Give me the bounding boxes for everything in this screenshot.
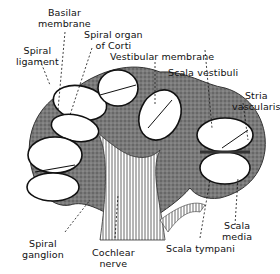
label-scala-tympani: Scala tympani (166, 244, 235, 255)
label-spiral-ganglion: Spiral ganglion (22, 239, 64, 260)
label-spiral-ligament: Spiral ligament (16, 46, 59, 67)
label-basilar-membrane: Basilar membrane (38, 8, 91, 29)
cochlea-diagram: Basilar membrane Spiral organ of Corti S… (0, 0, 280, 274)
label-cochlear-nerve: Cochlear nerve (92, 248, 135, 269)
label-scala-media: Scala media (222, 221, 252, 242)
label-stria-vascularis: Stria vascularis (232, 91, 280, 112)
label-scala-vestibuli: Scala vestibuli (168, 68, 238, 79)
label-vestibular-membrane: Vestibular membrane (110, 52, 214, 63)
label-spiral-organ-of-corti: Spiral organ of Corti (84, 30, 143, 51)
